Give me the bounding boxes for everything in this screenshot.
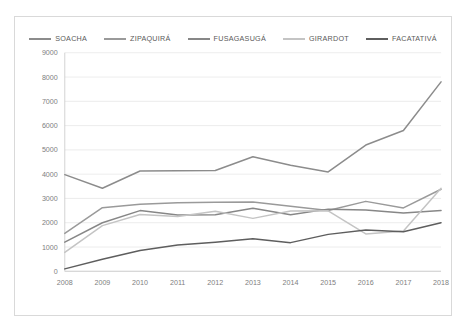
xtick-labels-group: 2008200920102011201220132014201520162017… [57, 279, 449, 287]
xtick-label: 2010 [132, 279, 148, 287]
xtick-label: 2011 [170, 279, 185, 287]
chart-frame: SOACHA ZIPAQUIRÁ FUSAGASUGÁ GIRARDOT FAC… [14, 16, 452, 316]
line-chart-plot: 0100020003000400050006000700080009000 20… [15, 17, 451, 315]
xtick-label: 2009 [94, 279, 110, 287]
ytick-label: 6000 [42, 122, 58, 130]
series-line-soacha [65, 82, 441, 188]
ytick-label: 1000 [42, 244, 58, 252]
xtick-label: 2014 [283, 279, 299, 287]
xtick-label: 2013 [245, 279, 261, 287]
ytick-label: 7000 [42, 98, 58, 106]
ytick-label: 8000 [42, 74, 58, 82]
ytick-label: 3000 [42, 195, 58, 203]
ytick-label: 0 [54, 268, 58, 276]
xtick-label: 2015 [320, 279, 336, 287]
xtick-label: 2012 [207, 279, 223, 287]
series-line-facatativa [65, 223, 441, 269]
ytick-label: 2000 [42, 219, 58, 227]
series-line-girardot [65, 188, 441, 252]
ytick-label: 5000 [42, 146, 58, 154]
ytick-label: 9000 [42, 49, 58, 57]
ytick-labels-group: 0100020003000400050006000700080009000 [42, 49, 58, 276]
ytick-label: 4000 [42, 171, 58, 179]
xtick-label: 2016 [358, 279, 374, 287]
xtick-label: 2017 [395, 279, 411, 287]
series-line-fusagasuga [65, 208, 441, 242]
xtick-label: 2008 [57, 279, 73, 287]
xtick-label: 2018 [433, 279, 449, 287]
series-group [65, 82, 441, 269]
